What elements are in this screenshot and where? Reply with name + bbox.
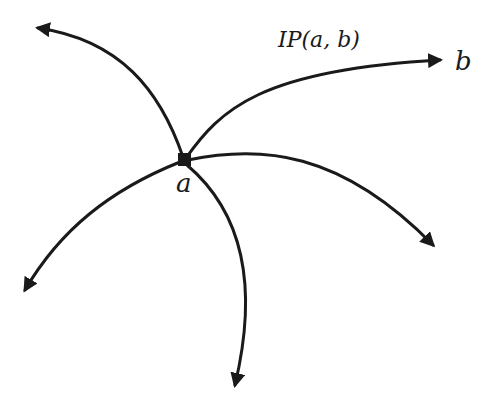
path-down: [187, 165, 246, 385]
path-upper-left: [38, 28, 183, 157]
path-to-b: [186, 60, 440, 158]
edge-label-ip: IP(a, b): [277, 27, 360, 52]
diagram-canvas: a b IP(a, b): [0, 0, 491, 409]
path-lower-left: [25, 162, 180, 290]
node-a-marker: [178, 153, 191, 166]
node-b-label: b: [455, 46, 472, 76]
path-right: [188, 154, 433, 245]
node-a-label: a: [176, 168, 192, 198]
